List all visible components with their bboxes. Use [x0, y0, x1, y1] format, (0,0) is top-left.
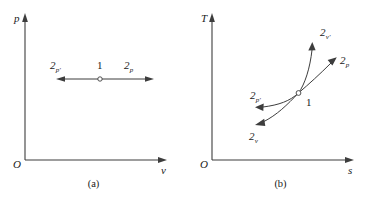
panel-b-label-2v-base: 2: [249, 130, 255, 142]
panel-b-origin-label: O: [200, 159, 208, 170]
panel-b-ts-diagram: T s O 1 2v′ 2p 2p′ 2v (b): [187, 0, 374, 197]
panel-b-label-2p-prime-sub: p′: [256, 96, 261, 104]
panel-b-label-2v: 2v: [249, 131, 258, 142]
p-axis-label: p: [14, 13, 20, 24]
s-axis-label: s: [348, 165, 352, 176]
panel-a-caption: (a): [0, 178, 187, 189]
panel-a-origin-label: O: [13, 159, 21, 170]
panel-b-label-2p-base: 2: [340, 54, 346, 66]
panel-b-label-2v-prime-base: 2: [320, 26, 326, 38]
panel-a-state-1-label: 1: [97, 60, 103, 71]
T-axis: [209, 13, 215, 160]
panel-b-state-1-label: 1: [306, 97, 312, 108]
curve-2-p-prime: [255, 93, 299, 111]
panel-b-drawing: [187, 0, 374, 197]
panel-b-label-2v-prime-sub: v′: [326, 33, 331, 41]
s-axis: [212, 157, 354, 163]
panel-a-label-2p-prime-base: 2: [50, 59, 56, 71]
panel-a-label-2p-sub: p: [130, 66, 134, 74]
state-point-1-marker: [296, 91, 301, 96]
constant-pressure-line: [56, 76, 154, 82]
panel-b-label-2p-sub: p: [346, 61, 350, 69]
p-axis: [22, 13, 28, 160]
T-axis-label: T: [201, 13, 207, 24]
panel-a-drawing: [0, 0, 187, 197]
panel-a-label-2p-prime: 2p′: [50, 60, 61, 71]
panel-b-label-2p: 2p: [340, 55, 349, 66]
panel-b-label-2p-prime-base: 2: [250, 89, 256, 101]
state-point-1-marker: [98, 77, 102, 81]
panel-b-label-2p-prime: 2p′: [250, 90, 261, 101]
panel-b-caption: (b): [187, 178, 374, 189]
curve-2-p: [299, 57, 337, 93]
v-axis: [25, 157, 167, 163]
thermodynamic-diagram-figure: p v O 1 2p′ 2p (a): [0, 0, 374, 197]
panel-a-pv-diagram: p v O 1 2p′ 2p (a): [0, 0, 187, 197]
panel-b-label-2v-sub: v: [255, 137, 258, 145]
panel-a-label-2p: 2p: [124, 60, 133, 71]
v-axis-label: v: [161, 165, 166, 176]
panel-b-label-2v-prime: 2v′: [320, 27, 330, 38]
panel-a-label-2p-prime-sub: p′: [56, 66, 61, 74]
panel-a-label-2p-base: 2: [124, 59, 130, 71]
